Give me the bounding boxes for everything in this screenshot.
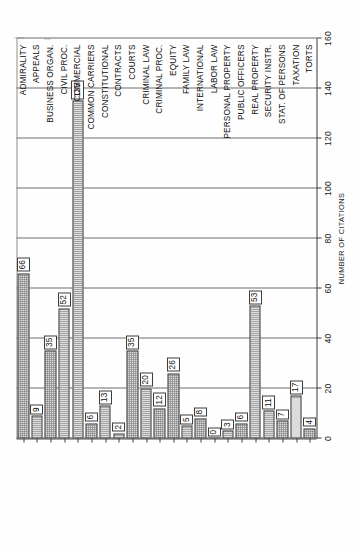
bar-row: 9 [30, 38, 44, 438]
bar-value-label: 7 [275, 409, 288, 419]
category-tick [159, 438, 160, 442]
bar [303, 428, 314, 438]
tick-0 [316, 437, 321, 438]
bar [167, 373, 178, 438]
tick-label-120: 120 [322, 131, 332, 146]
tick-40 [316, 337, 321, 338]
category-tick [296, 438, 297, 442]
bar [99, 406, 110, 439]
category-tick [132, 438, 133, 442]
category-label: STAT. OF PERSONS [277, 44, 286, 123]
tick-20 [316, 387, 321, 388]
tick-label-0: 0 [322, 436, 332, 441]
category-tick [186, 438, 187, 442]
bar [58, 308, 69, 438]
bar [249, 306, 260, 439]
bar [44, 351, 55, 439]
bar [263, 411, 274, 439]
category-tick [146, 438, 147, 442]
bar-row: 35 [125, 38, 139, 438]
tick-label-140: 140 [322, 81, 332, 96]
bar [17, 273, 28, 438]
category-label: EQUITY [168, 44, 177, 75]
bar-value-label: 20 [139, 372, 152, 386]
category-tick [77, 438, 78, 442]
tick-label-20: 20 [322, 383, 332, 393]
category-tick [282, 438, 283, 442]
category-tick [64, 438, 65, 442]
tick-80 [316, 237, 321, 238]
category-label: APPEALS [32, 44, 41, 82]
bar [31, 416, 42, 439]
category-tick [255, 438, 256, 442]
tick-label-100: 100 [322, 181, 332, 196]
bar [85, 423, 96, 438]
category-label: COURTS [127, 44, 136, 79]
tick-120 [316, 137, 321, 138]
category-label: FAMILY LAW [182, 44, 191, 94]
category-label: CIVIL PROC. [59, 44, 68, 94]
bar-chart-figure: 020406080100120140160 669355213561323520… [0, 0, 358, 551]
category-label: CRIMINAL PROC. [155, 44, 164, 113]
bar [72, 101, 83, 439]
category-label: REAL PROPERTY [250, 44, 259, 114]
category-label: COMMON CARRIERS [87, 44, 96, 129]
bar-value-label: 3 [221, 419, 234, 429]
bar [126, 351, 137, 439]
category-label: CONTRACTS [114, 44, 123, 96]
tick-140 [316, 87, 321, 88]
category-label: CRIMINAL LAW [141, 44, 150, 104]
category-tick [36, 438, 37, 442]
bar-row: 4 [302, 38, 316, 438]
category-label: PERSONAL PROPERTY [223, 44, 232, 138]
bar [140, 388, 151, 438]
category-tick [200, 438, 201, 442]
category-label: TAXATION [291, 44, 300, 85]
bar [276, 421, 287, 439]
bar-value-label: 9 [30, 404, 43, 414]
bar-value-label: 2 [112, 422, 125, 432]
category-label: ADMIRALITY [18, 44, 27, 95]
bar-value-label: 35 [125, 335, 138, 349]
category-tick [105, 438, 106, 442]
bar-row: 17 [289, 38, 303, 438]
category-label: SECURITY INSTR. [264, 44, 273, 117]
category-tick [309, 438, 310, 442]
bar-value-label: 17 [289, 380, 302, 394]
bar-row: 52 [57, 38, 71, 438]
tick-label-80: 80 [322, 233, 332, 243]
category-label: BUSINESS ORGAN. [46, 44, 55, 122]
category-tick [214, 438, 215, 442]
category-tick [268, 438, 269, 442]
bar-value-label: 6 [84, 412, 97, 422]
bar-value-label: 5 [180, 414, 193, 424]
bar-value-label: 53 [248, 290, 261, 304]
bar [113, 433, 124, 438]
bar-value-label: 35 [44, 335, 57, 349]
category-tick [173, 438, 174, 442]
bar-value-label: 0 [207, 427, 220, 437]
tick-160 [316, 37, 321, 38]
tick-label-160: 160 [322, 31, 332, 46]
bar-value-label: 4 [303, 417, 316, 427]
bar [181, 426, 192, 439]
rotated-figure-wrapper: 020406080100120140160 669355213561323520… [0, 0, 358, 551]
bar-row: 5 [180, 38, 194, 438]
bar-value-label: 13 [98, 390, 111, 404]
bar-value-label: 52 [57, 292, 70, 306]
category-label: INTERNATIONAL [196, 44, 205, 111]
bar [222, 431, 233, 439]
category-label: CONSTITUTIONAL [100, 44, 109, 118]
tick-label-40: 40 [322, 333, 332, 343]
category-label: PUBLIC OFFICERS [237, 44, 246, 120]
category-tick [118, 438, 119, 442]
bar-value-label: 66 [16, 257, 29, 271]
plot-area: 020406080100120140160 669355213561323520… [16, 38, 316, 439]
bar-value-label: 26 [166, 357, 179, 371]
bar-value-label: 6 [234, 412, 247, 422]
bar [153, 408, 164, 438]
bar-value-label: 12 [153, 392, 166, 406]
bar-row: 26 [166, 38, 180, 438]
category-tick [227, 438, 228, 442]
category-label: TORTS [305, 44, 314, 72]
